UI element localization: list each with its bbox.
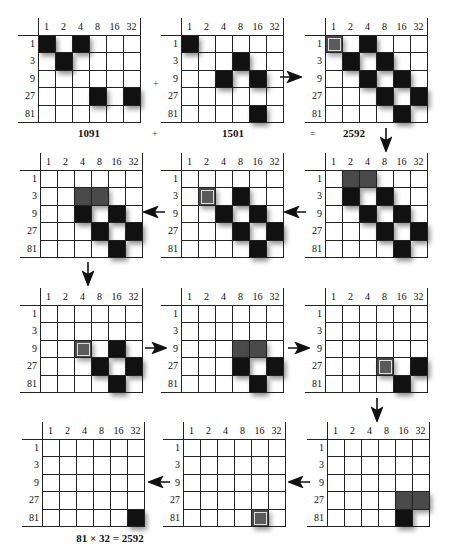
filled-cell xyxy=(266,222,283,239)
column-header: 2 xyxy=(59,425,76,436)
grid-line xyxy=(232,35,233,122)
column-header: 1 xyxy=(181,291,198,302)
grid-line xyxy=(217,439,218,526)
filled-cell xyxy=(410,357,427,374)
grid-line xyxy=(163,439,286,440)
partial-cell xyxy=(249,340,266,357)
row-header: 1 xyxy=(306,173,322,184)
caption-second-number: 1501 xyxy=(216,127,250,139)
partial-cell xyxy=(74,187,91,204)
grid-line xyxy=(359,170,360,257)
row-header: 1 xyxy=(21,173,37,184)
caption-result: 2592 xyxy=(337,127,371,139)
grid-line xyxy=(305,305,428,306)
grid-line xyxy=(325,70,428,71)
row-header: 9 xyxy=(308,477,324,488)
row-header: 27 xyxy=(308,494,324,505)
column-header: 32 xyxy=(268,425,285,436)
filled-cell xyxy=(181,35,198,52)
column-header: 2 xyxy=(342,291,359,302)
filled-cell xyxy=(376,222,393,239)
grid-line xyxy=(305,170,428,171)
grid-line xyxy=(161,35,284,36)
row-header: 1 xyxy=(162,173,178,184)
row-header: 81 xyxy=(306,108,322,119)
row-header: 81 xyxy=(23,512,39,523)
column-header: 2 xyxy=(198,291,215,302)
arrow-left-icon xyxy=(288,476,310,488)
column-header: 2 xyxy=(200,425,217,436)
grid-line xyxy=(38,70,141,71)
filled-cell xyxy=(393,105,410,122)
grid-line xyxy=(181,375,284,376)
row-header: 27 xyxy=(306,90,322,101)
filled-cell xyxy=(38,35,55,52)
filled-cell xyxy=(393,205,410,222)
row-header: 81 xyxy=(306,243,322,254)
grid-line xyxy=(249,305,250,392)
partial-cell xyxy=(342,170,359,187)
column-header: 32 xyxy=(412,425,429,436)
arrow-left-icon xyxy=(143,206,165,218)
column-header: 1 xyxy=(40,291,57,302)
grid-line xyxy=(234,439,235,526)
arrow-left-icon xyxy=(284,206,306,218)
grid-line xyxy=(38,87,141,88)
column-header: 1 xyxy=(40,156,57,167)
grid-line xyxy=(251,439,252,526)
grid-line xyxy=(181,222,284,223)
column-header: 4 xyxy=(359,291,376,302)
column-header: 2 xyxy=(57,156,74,167)
column-header: 1 xyxy=(325,21,342,32)
grid-line xyxy=(40,375,143,376)
grid-line xyxy=(18,35,141,36)
grid-line xyxy=(181,205,284,206)
grid-line xyxy=(393,170,394,257)
column-header: 32 xyxy=(410,156,427,167)
grid-line xyxy=(161,392,284,393)
column-header: 8 xyxy=(89,21,106,32)
arrow-right-icon xyxy=(288,342,310,354)
column-header: 4 xyxy=(215,21,232,32)
plus-sign: + xyxy=(152,128,158,139)
highlighted-cell xyxy=(74,340,91,357)
grid-line xyxy=(91,170,92,257)
grid-line xyxy=(40,222,143,223)
column-header: 1 xyxy=(181,21,198,32)
filled-cell xyxy=(376,87,393,104)
plus-marker: + xyxy=(153,78,159,89)
filled-cell xyxy=(266,357,283,374)
grid-line xyxy=(40,205,143,206)
row-header: 81 xyxy=(162,378,178,389)
column-header: 8 xyxy=(376,291,393,302)
grid-line xyxy=(305,257,428,258)
row-header: 1 xyxy=(162,38,178,49)
grid-line xyxy=(38,52,141,53)
column-header: 32 xyxy=(125,156,142,167)
grid-line xyxy=(327,474,430,475)
column-header: 8 xyxy=(232,21,249,32)
row-header: 9 xyxy=(23,477,39,488)
grid-line xyxy=(410,305,411,392)
column-header: 2 xyxy=(55,21,72,32)
filled-cell xyxy=(249,105,266,122)
row-header: 1 xyxy=(19,38,35,49)
filled-cell xyxy=(232,357,249,374)
grid-line xyxy=(40,322,143,323)
row-header: 9 xyxy=(21,343,37,354)
column-header: 8 xyxy=(376,21,393,32)
row-header: 27 xyxy=(19,90,35,101)
grid-line xyxy=(42,474,145,475)
grid-line xyxy=(181,357,284,358)
row-header: 9 xyxy=(19,73,35,84)
grid-line xyxy=(22,526,145,527)
grid-line xyxy=(20,170,143,171)
filled-cell xyxy=(232,222,249,239)
grid-line xyxy=(268,439,269,526)
column-header: 4 xyxy=(359,156,376,167)
row-header: 3 xyxy=(306,325,322,336)
grid-line xyxy=(325,52,428,53)
row-header: 27 xyxy=(23,494,39,505)
column-header: 16 xyxy=(393,291,410,302)
row-header: 1 xyxy=(21,308,37,319)
